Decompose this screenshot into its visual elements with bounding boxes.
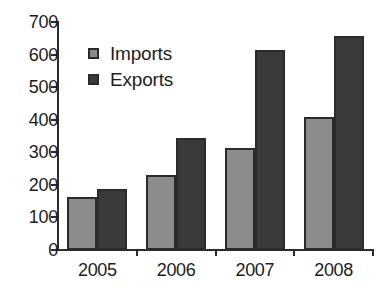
y-axis-tick-label: 700 [14, 13, 58, 31]
legend-item-exports: Exports [88, 66, 173, 92]
legend-label-exports: Exports [110, 70, 173, 89]
y-axis-tick-label: 500 [14, 78, 58, 96]
bar-imports-2006 [146, 175, 176, 250]
x-axis-tick [372, 249, 374, 256]
bar-exports-2005 [97, 189, 127, 250]
imports-swatch-icon [88, 48, 99, 59]
x-axis-tick [136, 249, 138, 256]
bar-exports-2008 [334, 36, 364, 250]
bar-imports-2005 [67, 197, 97, 250]
x-axis-tick-label: 2007 [216, 261, 295, 279]
chart-legend: Imports Exports [88, 40, 173, 92]
x-axis-tick-label: 2008 [294, 261, 373, 279]
y-axis-tick-label: 100 [14, 208, 58, 226]
y-axis-tick-label: 300 [14, 143, 58, 161]
x-axis-tick [215, 249, 217, 256]
bar-imports-2008 [304, 117, 334, 250]
x-axis-tick [293, 249, 295, 256]
bar-exports-2006 [176, 138, 206, 250]
y-axis-tick-label: 400 [14, 111, 58, 129]
y-axis-tick-label: 200 [14, 176, 58, 194]
y-axis-tick-label: 0 [14, 241, 58, 259]
legend-item-imports: Imports [88, 40, 173, 66]
exports-swatch-icon [88, 74, 99, 85]
bar-imports-2007 [225, 148, 255, 250]
legend-label-imports: Imports [110, 44, 172, 63]
x-axis-tick-label: 2005 [58, 261, 137, 279]
x-axis-tick-label: 2006 [137, 261, 216, 279]
bar-exports-2007 [255, 50, 285, 250]
y-axis-tick-label: 600 [14, 46, 58, 64]
bar-chart: 0100200300400500600700 2005200620072008 … [0, 0, 386, 299]
